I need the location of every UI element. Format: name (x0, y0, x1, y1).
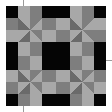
pinwheel-top-left (18, 18, 42, 42)
pinwheel-bottom-left (18, 70, 42, 94)
pinwheel-bottom-right (70, 70, 94, 94)
pinwheel-top-right (70, 18, 94, 42)
quilt-block (0, 0, 112, 112)
tick-right (106, 60, 112, 61)
tick-bottom (23, 106, 24, 112)
tick-top (23, 0, 24, 6)
